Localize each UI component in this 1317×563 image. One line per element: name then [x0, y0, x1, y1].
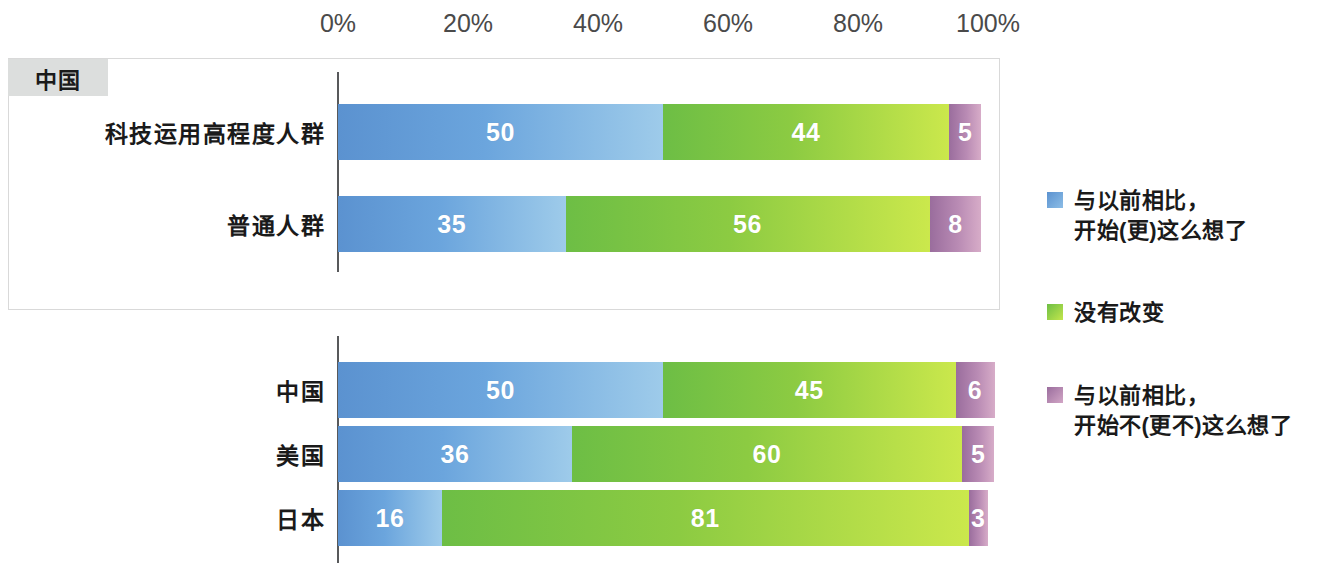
bar-segment-blue: 36 [338, 426, 572, 482]
bar-segment-green: 56 [566, 196, 930, 252]
bar-segment-blue: 16 [338, 490, 442, 546]
bar-row-label: 科技运用高程度人群 [0, 104, 325, 160]
bar-track: 36605 [338, 426, 995, 482]
bar-segment-value: 81 [691, 506, 720, 531]
bar-segment-blue: 50 [338, 104, 663, 160]
bar-row-label: 日本 [0, 490, 325, 546]
bar-segment-purple: 5 [949, 104, 982, 160]
bar-segment-green: 60 [572, 426, 962, 482]
legend-item[interactable]: 没有改变 [1047, 298, 1164, 328]
bar-row: 科技运用高程度人群50445 [0, 104, 1317, 160]
bar-segment-value: 6 [968, 378, 982, 403]
bar-segment-value: 44 [792, 120, 821, 145]
bar-segment-value: 56 [733, 212, 762, 237]
bar-segment-value: 35 [437, 212, 466, 237]
bar-segment-green: 44 [663, 104, 949, 160]
bar-track: 50445 [338, 104, 982, 160]
bar-segment-value: 5 [958, 120, 972, 145]
bar-segment-purple: 6 [956, 362, 995, 418]
bar-track: 50456 [338, 362, 995, 418]
bar-segment-value: 50 [486, 378, 515, 403]
bar-segment-value: 16 [376, 506, 405, 531]
legend-item[interactable]: 与以前相比， 开始不(更不)这么想了 [1047, 381, 1292, 441]
bar-segment-blue: 50 [338, 362, 663, 418]
legend-label: 与以前相比， 开始不(更不)这么想了 [1074, 381, 1292, 441]
stacked-bar-chart: 0%20%40%60%80%100% 中国 科技运用高程度人群50445普通人群… [0, 0, 1317, 563]
legend-item[interactable]: 与以前相比， 开始(更)这么想了 [1047, 186, 1247, 246]
bar-segment-value: 45 [795, 378, 824, 403]
legend-swatch-green-icon [1047, 304, 1063, 320]
bar-track: 35568 [338, 196, 982, 252]
bar-row-label: 普通人群 [0, 196, 325, 252]
bar-row-label: 美国 [0, 426, 325, 482]
bar-track: 16813 [338, 490, 988, 546]
bar-segment-value: 60 [753, 442, 782, 467]
legend-label: 没有改变 [1074, 298, 1164, 328]
bar-segment-value: 36 [441, 442, 470, 467]
legend-swatch-purple-icon [1047, 387, 1063, 403]
bar-segment-purple: 3 [969, 490, 989, 546]
bar-segment-green: 45 [663, 362, 956, 418]
bar-segment-value: 8 [948, 212, 962, 237]
bar-segment-purple: 5 [962, 426, 994, 482]
plot-area: 科技运用高程度人群50445普通人群35568中国50456美国36605日本1… [0, 0, 1317, 563]
bar-segment-blue: 35 [338, 196, 566, 252]
bar-segment-value: 50 [486, 120, 515, 145]
bar-row-label: 中国 [0, 362, 325, 418]
bar-segment-green: 81 [442, 490, 969, 546]
legend-swatch-blue-icon [1047, 192, 1063, 208]
legend-label: 与以前相比， 开始(更)这么想了 [1074, 186, 1247, 246]
bar-row: 日本16813 [0, 490, 1317, 546]
bar-segment-purple: 8 [930, 196, 982, 252]
source-note [1023, 552, 1317, 563]
bar-segment-value: 5 [971, 442, 985, 467]
bar-segment-value: 3 [971, 506, 985, 531]
